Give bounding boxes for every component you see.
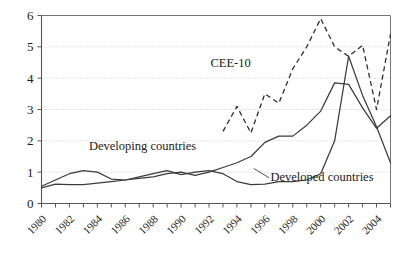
y-tick-label-3: 3 (27, 102, 34, 117)
y-tick-label-5: 5 (27, 39, 34, 54)
y-tick-label-6: 6 (27, 8, 34, 23)
x-tick-label-1998: 1998 (276, 212, 300, 236)
x-tick-label-2002: 2002 (331, 212, 355, 236)
x-tick-label-1986: 1986 (108, 212, 132, 236)
series-line-developed-countries (42, 56, 391, 188)
developed-countries-leader-line (254, 168, 269, 177)
y-axis-ticks-group (38, 16, 42, 204)
x-tick-label-1996: 1996 (248, 212, 272, 236)
x-tick-label-2004: 2004 (359, 212, 383, 236)
x-tick-label-1990: 1990 (164, 212, 188, 236)
series-label-developing-countries: Developing countries (89, 139, 196, 153)
x-tick-label-1980: 1980 (24, 212, 48, 236)
line-chart: 0123456 19801982198419861988199019921994… (0, 0, 420, 259)
y-tick-label-2: 2 (27, 133, 34, 148)
x-tick-label-1994: 1994 (220, 212, 244, 236)
x-tick-label-1984: 1984 (80, 212, 104, 236)
series-label-developed-countries: Developed countries (270, 170, 373, 184)
x-axis-ticks-group (42, 204, 391, 208)
x-axis-tick-labels-group: 1980198219841986198819901992199419961998… (24, 212, 383, 236)
x-tick-label-1982: 1982 (52, 212, 76, 236)
x-tick-label-1988: 1988 (136, 212, 160, 236)
x-tick-label-2000: 2000 (304, 212, 328, 236)
series-group (42, 19, 391, 188)
y-tick-label-4: 4 (27, 71, 34, 86)
series-label-cee-10: CEE-10 (210, 56, 250, 70)
x-tick-label-1992: 1992 (192, 212, 216, 236)
y-tick-label-0: 0 (27, 196, 34, 211)
y-tick-label-1: 1 (27, 165, 34, 180)
y-axis-tick-labels-group: 0123456 (27, 8, 34, 211)
chart-canvas: 0123456 19801982198419861988199019921994… (0, 0, 420, 259)
series-line-cee-10 (223, 19, 391, 133)
